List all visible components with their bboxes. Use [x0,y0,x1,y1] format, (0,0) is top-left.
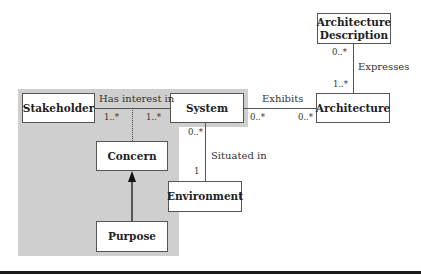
purpose-box: Purpose [96,221,168,252]
has-interest-in-mult-right: 1..* [146,112,161,122]
expresses-mult-bottom: 1..* [333,79,348,89]
purpose-label: Purpose [108,230,156,243]
situated-in-mult-top: 0..* [188,127,203,137]
system-box: System [170,93,244,123]
architecture-description-label-2: Description [320,29,388,42]
exhibits-mult-left: 0..* [250,112,265,122]
concern-box: Concern [96,141,168,171]
situated-in-label: Situated in [211,150,267,161]
environment-box: Environment [168,181,242,212]
bottom-rule [0,271,421,274]
has-interest-in-mult-left: 1..* [104,112,119,122]
situated-in-mult-bottom: 1 [194,166,199,176]
system-label: System [186,102,228,115]
architecture-description-label-1: Architecture [317,16,391,29]
expresses-mult-top: 0..* [332,47,347,57]
environment-label: Environment [167,190,243,203]
concern-label: Concern [107,150,156,163]
association-class-dotted-line [132,108,133,141]
purpose-to-concern-line [131,180,133,221]
architecture-label: Architecture [316,102,390,115]
expresses-label: Expresses [358,61,409,72]
has-interest-in-label: Has interest in [99,93,174,104]
exhibits-label: Exhibits [262,93,303,104]
arrowhead-icon [128,171,136,182]
situated-in-line [205,123,206,181]
architecture-description-box: Architecture Description [317,13,391,44]
exhibits-line [244,108,316,109]
expresses-line [353,43,354,93]
exhibits-mult-right: 0..* [298,112,313,122]
architecture-box: Architecture [316,93,390,123]
stakeholder-box: Stakeholder [22,93,95,123]
stakeholder-label: Stakeholder [23,102,94,115]
